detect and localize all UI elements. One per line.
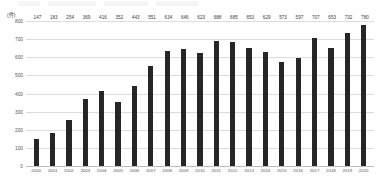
- bar-value-label: 416: [99, 15, 107, 20]
- x-axis-tick-label: 2007: [143, 168, 159, 180]
- bar-slot: 352: [110, 21, 126, 166]
- bar[interactable]: 352: [115, 102, 120, 166]
- x-axis-tick-label: 2006: [126, 168, 142, 180]
- bar-value-label: 597: [296, 15, 304, 20]
- bar[interactable]: 732: [345, 33, 350, 166]
- bar[interactable]: 416: [99, 91, 104, 166]
- bar-value-label: 551: [148, 15, 156, 20]
- bar[interactable]: 551: [148, 66, 153, 166]
- bar-slot: 732: [339, 21, 355, 166]
- bar[interactable]: 597: [296, 58, 301, 166]
- bar[interactable]: 183: [50, 133, 55, 166]
- bar[interactable]: 634: [165, 51, 170, 166]
- y-axis-tick-label: 0: [20, 164, 23, 169]
- x-axis-tick-label: 2016: [290, 168, 306, 180]
- x-axis-tick-label: 2013: [241, 168, 257, 180]
- y-axis-tick-label: 800: [15, 19, 23, 24]
- x-axis-tick-label: 2020: [356, 168, 372, 180]
- y-axis-tick-label: 500: [15, 73, 23, 78]
- bar[interactable]: 369: [83, 99, 88, 166]
- bar-value-label: 573: [279, 15, 287, 20]
- bar[interactable]: 573: [279, 62, 284, 166]
- bar-value-label: 653: [328, 15, 336, 20]
- bar-value-label: 688: [214, 15, 222, 20]
- bar-slot: 147: [28, 21, 44, 166]
- plot-area: 8007006005004003002001000 14718325436941…: [26, 21, 374, 166]
- bar-slot: 183: [44, 21, 60, 166]
- x-axis-tick-label: 2001: [44, 168, 60, 180]
- bar-value-label: 629: [263, 15, 271, 20]
- bar[interactable]: 646: [181, 49, 186, 166]
- bar-value-label: 646: [181, 15, 189, 20]
- bar-value-label: 634: [165, 15, 173, 20]
- x-axis-tick-label: 2003: [77, 168, 93, 180]
- bar-value-label: 147: [34, 15, 42, 20]
- y-axis-tick-label: 300: [15, 109, 23, 114]
- bar-series: 1471832543694163524435516346466236886856…: [26, 21, 374, 166]
- y-axis-tick-label: 200: [15, 127, 23, 132]
- x-axis-tick-label: 2012: [225, 168, 241, 180]
- bar-slot: 551: [143, 21, 159, 166]
- bar-slot: 653: [241, 21, 257, 166]
- bar-value-label: 780: [361, 15, 369, 20]
- x-axis-tick-label: 2014: [257, 168, 273, 180]
- x-axis-tick-label: 2017: [306, 168, 322, 180]
- bar-value-label: 443: [132, 15, 140, 20]
- bar-value-label: 653: [246, 15, 254, 20]
- bar[interactable]: 780: [361, 25, 366, 166]
- x-axis-tick-label: 2011: [208, 168, 224, 180]
- gridline: 0: [26, 166, 374, 167]
- bar-slot: 629: [257, 21, 273, 166]
- x-axis-tick-label: 2018: [323, 168, 339, 180]
- bar-slot: 646: [175, 21, 191, 166]
- bar-slot: 369: [77, 21, 93, 166]
- bar[interactable]: 254: [66, 120, 71, 166]
- x-axis-tick-label: 2010: [192, 168, 208, 180]
- bar-value-label: 352: [115, 15, 123, 20]
- bar-slot: 653: [323, 21, 339, 166]
- y-axis-tick-label: 100: [15, 145, 23, 150]
- bar[interactable]: 688: [214, 41, 219, 166]
- y-axis-tick-label: 600: [15, 55, 23, 60]
- bar-chart: (件) 8007006005004003002001000 1471832543…: [0, 0, 380, 186]
- bar-slot: 780: [356, 21, 372, 166]
- bar-slot: 254: [61, 21, 77, 166]
- x-axis-tick-label: 2005: [110, 168, 126, 180]
- x-axis-tick-label: 2019: [339, 168, 355, 180]
- bar-value-label: 685: [230, 15, 238, 20]
- bar-slot: 573: [274, 21, 290, 166]
- y-axis-tick-label: 400: [15, 91, 23, 96]
- x-axis-tick-label: 2000: [28, 168, 44, 180]
- cropped-header-strip: [18, 1, 198, 6]
- bar-slot: 623: [192, 21, 208, 166]
- bar-slot: 634: [159, 21, 175, 166]
- x-axis-tick-label: 2008: [159, 168, 175, 180]
- bar[interactable]: 629: [263, 52, 268, 166]
- bar[interactable]: 707: [312, 38, 317, 166]
- bar-value-label: 369: [83, 15, 91, 20]
- bar-value-label: 732: [345, 15, 353, 20]
- bar-slot: 707: [306, 21, 322, 166]
- bar-value-label: 183: [50, 15, 58, 20]
- x-axis-tick-label: 2002: [61, 168, 77, 180]
- bar[interactable]: 685: [230, 42, 235, 166]
- bar-value-label: 623: [197, 15, 205, 20]
- x-axis-tick-labels: 2000200120022003200420052006200720082009…: [26, 168, 374, 180]
- x-axis-tick-label: 2015: [274, 168, 290, 180]
- x-axis-tick-label: 2009: [175, 168, 191, 180]
- y-axis-tick-label: 700: [15, 37, 23, 42]
- bar-value-label: 254: [66, 15, 74, 20]
- bar[interactable]: 443: [132, 86, 137, 166]
- x-axis-tick-label: 2004: [94, 168, 110, 180]
- bar-slot: 685: [225, 21, 241, 166]
- bar-slot: 688: [208, 21, 224, 166]
- bar[interactable]: 147: [34, 139, 39, 166]
- bar-slot: 597: [290, 21, 306, 166]
- bar-slot: 416: [94, 21, 110, 166]
- bar[interactable]: 623: [197, 53, 202, 166]
- bar[interactable]: 653: [246, 48, 251, 166]
- bar-slot: 443: [126, 21, 142, 166]
- bar[interactable]: 653: [328, 48, 333, 166]
- bar-value-label: 707: [312, 15, 320, 20]
